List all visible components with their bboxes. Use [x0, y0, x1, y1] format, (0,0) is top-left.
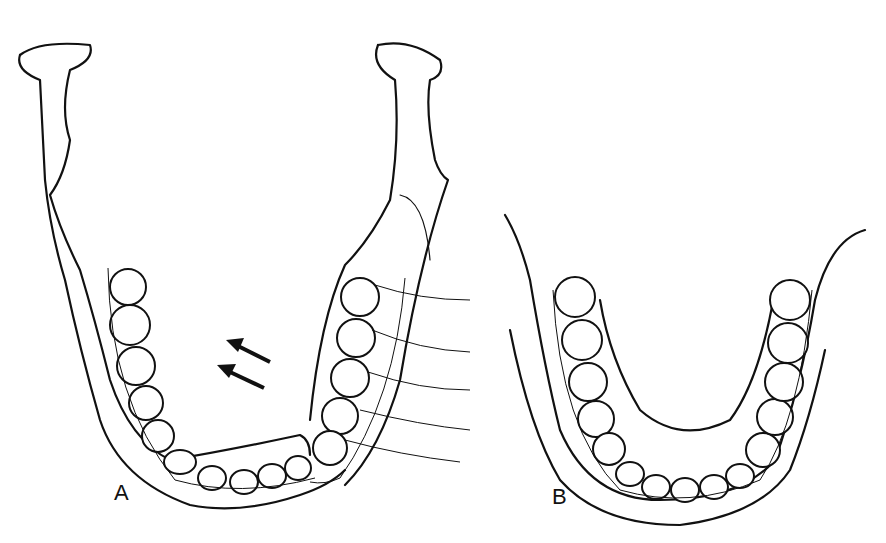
mandible-illustration	[0, 0, 886, 543]
panel-a-mandible	[19, 43, 470, 508]
reduction-arrows	[217, 338, 270, 388]
panel-label-b: B	[552, 484, 567, 510]
panel-label-a: A	[114, 480, 129, 506]
panel-b-mandible	[505, 215, 865, 525]
